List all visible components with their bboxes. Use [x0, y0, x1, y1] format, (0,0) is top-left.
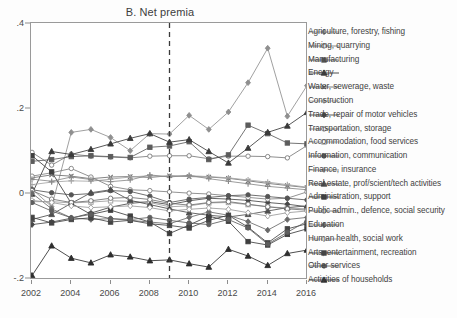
data-point-diamond-solid [31, 222, 34, 228]
legend-item-label: Activities of households [308, 275, 392, 285]
data-point-circle [246, 226, 250, 230]
data-point-diamond-open [226, 206, 231, 212]
data-point-circle-open [108, 196, 112, 200]
x-axis-tick-mark [149, 280, 150, 284]
x-axis-tick-label: 2006 [100, 288, 120, 298]
data-point-circle [148, 215, 152, 219]
data-point-circle [128, 189, 132, 193]
legend: Agriculture, forestry, fishingMining, qu… [307, 22, 457, 284]
data-point-triangle [265, 262, 271, 267]
data-point-square [148, 145, 152, 149]
data-point-circle-open [128, 195, 132, 199]
data-point-circle-open [167, 154, 171, 158]
y-axis-tick-label: -.2 [13, 273, 24, 283]
data-point-circle-open [89, 199, 93, 203]
legend-item[interactable]: Finance, insurance [307, 160, 457, 174]
legend-item[interactable]: Manufacturing [307, 50, 457, 64]
data-point-square [108, 154, 112, 158]
data-point-circle-open [167, 190, 171, 194]
data-point-triangle [245, 145, 251, 150]
data-point-diamond [246, 219, 251, 225]
data-point-circle [187, 221, 191, 225]
data-point-square-solid [246, 239, 250, 243]
data-point-square [187, 226, 191, 230]
data-point-diamond-open [206, 205, 211, 211]
x-axis-tick-mark [227, 280, 228, 284]
data-point-circle-open [246, 154, 250, 158]
data-point-circle-open [207, 200, 211, 204]
data-point-triangle [108, 252, 114, 257]
data-point-circle [89, 212, 93, 216]
data-point-circle [266, 194, 270, 198]
data-point-triangle [49, 148, 55, 153]
data-point-triangle [49, 243, 55, 248]
data-point-square [285, 141, 289, 145]
data-point-diamond [265, 227, 270, 233]
x-axis-tick-label: 2016 [296, 288, 316, 298]
legend-item[interactable]: Construction [307, 91, 457, 105]
data-point-circle [49, 191, 53, 195]
legend-item[interactable]: Education [307, 215, 457, 229]
data-point-triangle [31, 273, 35, 278]
x-axis-tick-mark [267, 280, 268, 284]
x-axis-tick-mark [70, 280, 71, 284]
data-point-circle [187, 197, 191, 201]
y-axis-tick-label: .4 [16, 18, 24, 28]
data-point-square-solid [31, 154, 34, 158]
data-point-circle [285, 196, 289, 200]
legend-item[interactable]: Administration, support [307, 187, 457, 201]
data-point-circle [285, 230, 289, 234]
data-point-square [226, 153, 230, 157]
data-point-circle [246, 193, 250, 197]
data-point-square [31, 215, 34, 219]
legend-item[interactable]: Water, sewerage, waste [307, 77, 457, 91]
data-point-circle-open [285, 156, 289, 160]
legend-item[interactable]: Mining, quarrying [307, 36, 457, 50]
data-point-square [31, 159, 34, 163]
legend-item[interactable]: Agriculture, forestry, fishing [307, 22, 457, 36]
data-point-circle-open [266, 205, 270, 209]
data-point-circle [108, 216, 112, 220]
legend-item[interactable]: Real estate, prof/scient/tech activities [307, 174, 457, 188]
data-point-circle-open [49, 163, 53, 167]
data-point-plus [226, 178, 232, 184]
legend-item[interactable]: Other services [307, 256, 457, 270]
data-point-diamond [285, 217, 290, 223]
legend-item[interactable]: Arts, entertainment, recreation [307, 243, 457, 257]
data-point-diamond [69, 130, 74, 136]
x-axis-tick-label: 2010 [178, 288, 198, 298]
y-axis: .4.20-.2 [0, 22, 30, 279]
data-point-diamond [89, 127, 94, 133]
y-axis-tick-label: .2 [16, 103, 24, 113]
x-axis-tick-label: 2004 [60, 288, 80, 298]
data-point-triangle [206, 148, 212, 153]
figure-caption [6, 307, 306, 318]
data-point-square [246, 123, 250, 127]
legend-item[interactable]: Public admin., defence, social security [307, 201, 457, 215]
legend-item[interactable]: Energy [307, 63, 457, 77]
data-point-circle-open [187, 154, 191, 158]
page-title: B. Net premia [0, 6, 320, 18]
x-axis-tick-label: 2008 [139, 288, 159, 298]
data-point-circle [31, 200, 34, 204]
data-point-square [89, 154, 93, 158]
data-point-circle-open [69, 166, 73, 170]
data-point-circle [226, 217, 230, 221]
legend-item[interactable]: Accommodation, food services [307, 132, 457, 146]
legend-item[interactable]: Information, communication [307, 146, 457, 160]
data-point-circle-open [148, 154, 152, 158]
x-axis-tick-mark [188, 280, 189, 284]
data-point-plus [49, 178, 55, 184]
data-point-circle [266, 242, 270, 246]
data-point-circle-open [246, 202, 250, 206]
figure-panel: B. Net premia .4.20-.2 20022004200620082… [0, 0, 457, 318]
data-point-plus [186, 172, 192, 178]
legend-item[interactable]: Activities of households [307, 270, 457, 284]
data-point-square-solid [49, 170, 53, 174]
data-point-circle [69, 193, 73, 197]
legend-item[interactable]: Transportation, storage [307, 119, 457, 133]
legend-item[interactable]: Human health, social work [307, 229, 457, 243]
legend-item[interactable]: Trade, repair of motor vehicles [307, 105, 457, 119]
x-axis-tick-label: 2002 [21, 288, 41, 298]
data-point-plus [68, 174, 74, 180]
